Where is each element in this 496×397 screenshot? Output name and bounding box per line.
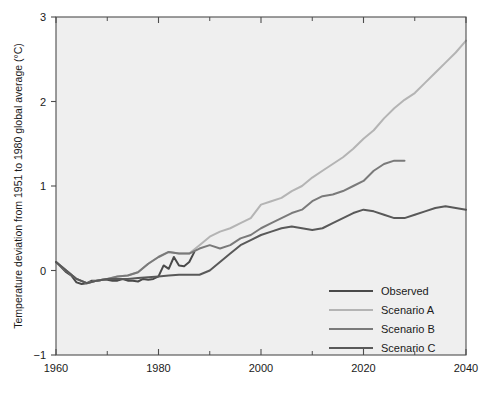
y-tick-label--1: −1 xyxy=(33,349,46,361)
y-tick-label-1: 1 xyxy=(40,180,46,192)
y-axis-title: Temperature deviation from 1951 to 1980 … xyxy=(12,43,24,329)
legend-label-scenario-c: Scenario C xyxy=(381,342,435,354)
legend-label-observed: Observed xyxy=(381,285,429,297)
temperature-projection-line-chart: 19601980200020202040−10123 Temperature d… xyxy=(0,0,496,397)
x-tick-label-2000: 2000 xyxy=(249,362,273,374)
legend-label-scenario-b: Scenario B xyxy=(381,323,435,335)
x-tick-label-2020: 2020 xyxy=(351,362,375,374)
legend-label-scenario-a: Scenario A xyxy=(381,304,435,316)
x-tick-label-1960: 1960 xyxy=(44,362,68,374)
x-tick-label-1980: 1980 xyxy=(146,362,170,374)
y-tick-label-3: 3 xyxy=(40,11,46,23)
y-tick-label-2: 2 xyxy=(40,96,46,108)
chart-figure: 19601980200020202040−10123 Temperature d… xyxy=(0,0,496,397)
x-tick-label-2040: 2040 xyxy=(454,362,478,374)
y-axis-title-group: Temperature deviation from 1951 to 1980 … xyxy=(12,43,24,329)
y-tick-label-0: 0 xyxy=(40,265,46,277)
